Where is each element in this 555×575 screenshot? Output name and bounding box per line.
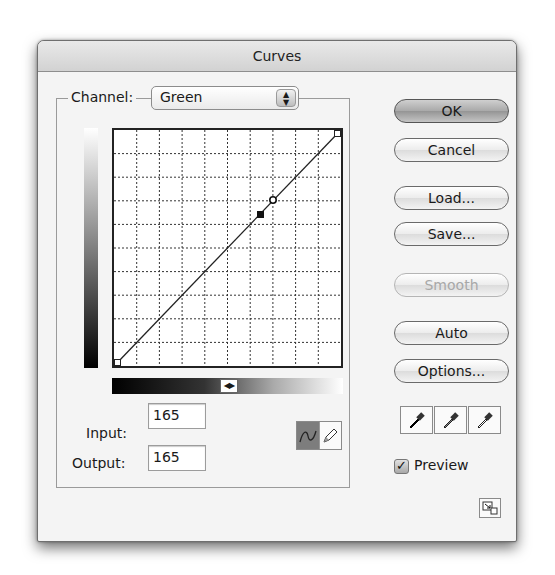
cancel-button[interactable]: Cancel <box>394 138 509 162</box>
ok-button[interactable]: OK <box>394 99 509 123</box>
save-button[interactable]: Save... <box>394 222 509 246</box>
expand-dialog-button[interactable] <box>479 498 501 518</box>
input-label: Input: <box>86 425 127 441</box>
options-button[interactable]: Options... <box>394 359 509 383</box>
eyedropper-black-icon <box>407 410 427 430</box>
control-point <box>270 197 276 203</box>
dialog-title: Curves <box>38 41 516 72</box>
pencil-tool-icon <box>321 427 339 445</box>
input-field[interactable]: 165 <box>148 403 206 429</box>
black-point-eyedropper[interactable] <box>400 406 433 434</box>
curve-graph[interactable] <box>112 128 343 368</box>
gradient-toggle-button[interactable]: ◀▶ <box>220 379 238 393</box>
input-gradient-bar: ◀▶ <box>112 378 343 394</box>
curve-graph-svg <box>114 130 341 366</box>
sample-point <box>257 211 264 218</box>
curve-tool-group <box>296 421 342 450</box>
curve-tool-icon <box>299 428 317 444</box>
gray-point-eyedropper[interactable] <box>434 406 467 434</box>
curves-dialog: Curves Channel: Green ▲▼ <box>37 40 517 542</box>
channel-label: Channel: <box>68 89 136 105</box>
auto-button[interactable]: Auto <box>394 321 509 345</box>
load-button[interactable]: Load... <box>394 186 509 210</box>
output-field[interactable]: 165 <box>148 445 206 471</box>
white-point-eyedropper[interactable] <box>468 406 501 434</box>
expand-dialog-icon <box>482 501 498 515</box>
up-down-arrows-icon: ▲▼ <box>276 89 296 107</box>
channel-select[interactable]: Green ▲▼ <box>151 86 299 110</box>
smooth-button[interactable]: Smooth <box>394 273 509 297</box>
eyedropper-gray-icon <box>441 410 461 430</box>
output-label: Output: <box>72 455 125 471</box>
endpoint-white <box>335 131 341 137</box>
eyedropper-white-icon <box>475 410 495 430</box>
eyedropper-group <box>400 406 502 434</box>
pencil-tool-button[interactable] <box>319 422 342 449</box>
curve-tool-button[interactable] <box>297 422 319 449</box>
output-gradient-bar <box>84 128 98 368</box>
preview-checkbox[interactable]: ✓ <box>394 459 409 474</box>
preview-label: Preview <box>414 457 469 473</box>
channel-value: Green <box>160 89 202 105</box>
endpoint-black <box>115 360 121 366</box>
